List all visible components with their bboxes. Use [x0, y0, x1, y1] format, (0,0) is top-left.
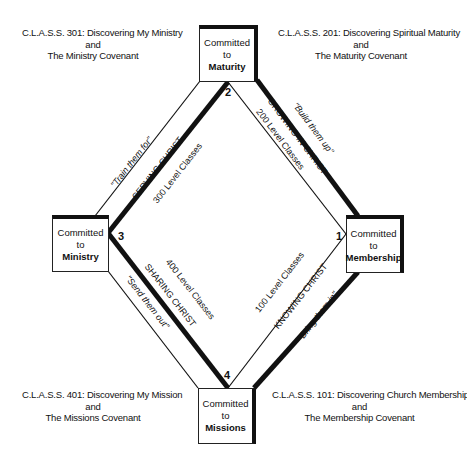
caption-class-301: C.L.A.S.S. 301: Discovering My Ministry … [22, 27, 164, 62]
caption-class-101: C.L.A.S.S. 101: Discovering Church Membe… [272, 389, 447, 424]
edge-maturity-membership-inner [228, 82, 346, 234]
vertex-number-1: 1 [336, 230, 342, 242]
node-maturity: Committed to Maturity [199, 25, 258, 82]
vertex-number-2: 2 [225, 86, 231, 98]
caption-class-401: C.L.A.S.S. 401: Discovering My Mission a… [22, 389, 164, 424]
node-membership: Committed to Membership [346, 215, 404, 273]
node-missions: Committed to Missions [198, 388, 256, 444]
vertex-number-3: 3 [118, 230, 124, 242]
vertex-number-4: 4 [224, 369, 230, 381]
caption-class-201: C.L.A.S.S. 201: Discovering Spiritual Ma… [278, 27, 444, 62]
node-ministry: Committed to Ministry [52, 215, 109, 272]
